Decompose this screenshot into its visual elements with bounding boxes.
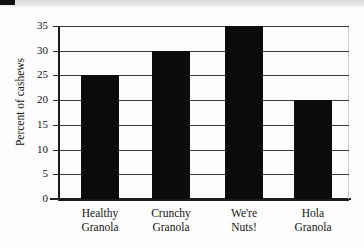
bar-1	[81, 75, 119, 199]
gridline-0	[58, 199, 349, 201]
y-tick-mark-35	[53, 26, 59, 27]
bar-2	[152, 51, 190, 199]
y-tick-mark-25	[53, 75, 59, 76]
y-tick-mark-10	[53, 150, 59, 151]
y-tick-mark-20	[53, 100, 59, 101]
bar-chart: Percent of cashews 35302520151050Healthy…	[0, 0, 364, 248]
y-tick-label-25: 25	[22, 69, 48, 80]
y-tick-label-10: 10	[22, 144, 48, 155]
bar-4	[294, 100, 332, 199]
y-tick-label-15: 15	[22, 119, 48, 130]
y-tick-label-35: 35	[22, 20, 48, 31]
y-tick-mark-15	[53, 125, 59, 126]
x-axis-label-4: HolaGranola	[268, 207, 358, 234]
gridline-30	[58, 51, 349, 52]
y-tick-label-5: 5	[22, 168, 48, 179]
x-axis-label-line2: Granola	[268, 221, 358, 235]
y-tick-label-0: 0	[22, 193, 48, 204]
y-tick-mark-5	[53, 174, 59, 175]
x-axis-label-line1: Hola	[268, 207, 358, 221]
y-tick-mark-0	[53, 199, 59, 200]
y-tick-label-20: 20	[22, 94, 48, 105]
y-tick-mark-30	[53, 51, 59, 52]
bar-3	[225, 26, 263, 199]
gridline-35	[58, 26, 349, 27]
y-tick-label-30: 30	[22, 45, 48, 56]
